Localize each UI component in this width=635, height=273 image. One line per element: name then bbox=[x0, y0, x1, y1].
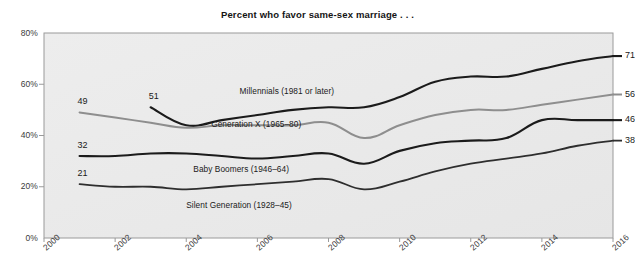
series-end-value: 46 bbox=[625, 114, 635, 124]
series-start-value: 49 bbox=[78, 96, 88, 106]
line-chart-plot bbox=[0, 0, 635, 273]
series-inline-label: Millennials (1981 or later) bbox=[240, 86, 335, 96]
series-inline-label: Silent Generation (1928–45) bbox=[186, 200, 292, 210]
series-inline-label: Baby Boomers (1946–64) bbox=[193, 164, 289, 174]
series-end-value: 71 bbox=[625, 50, 635, 60]
series-start-value: 51 bbox=[149, 91, 159, 101]
y-tick-label: 0% bbox=[8, 233, 38, 243]
y-tick-label: 20% bbox=[8, 181, 38, 191]
chart-figure: Percent who favor same-sex marriage . . … bbox=[0, 0, 635, 273]
series-start-value: 32 bbox=[78, 140, 88, 150]
series-end-value: 56 bbox=[625, 89, 635, 99]
series-end-value: 38 bbox=[625, 135, 635, 145]
series-inline-label: Generation X (1965–80) bbox=[211, 119, 301, 129]
y-tick-label: 60% bbox=[8, 79, 38, 89]
plot-area bbox=[44, 33, 613, 238]
y-axis-ticks bbox=[39, 84, 44, 187]
y-tick-label: 40% bbox=[8, 130, 38, 140]
label-leader-lines bbox=[613, 56, 622, 141]
y-tick-label: 80% bbox=[8, 28, 38, 38]
series-start-value: 21 bbox=[78, 168, 88, 178]
